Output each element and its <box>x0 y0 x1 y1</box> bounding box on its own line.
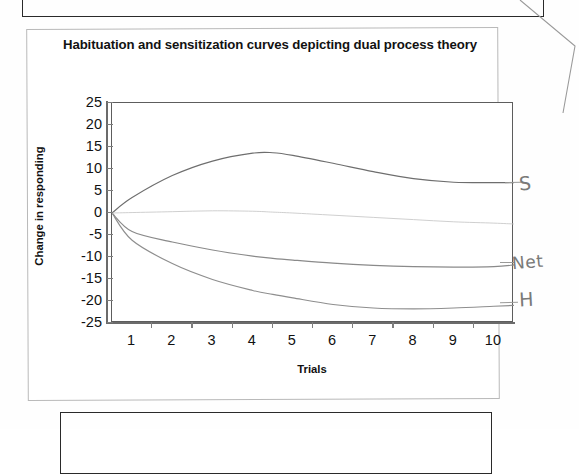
x-tick-mark <box>392 322 393 328</box>
y-tick-label: 15 <box>56 139 102 154</box>
x-tick-mark <box>433 322 434 328</box>
x-tick-label: 9 <box>433 333 473 348</box>
x-tick-mark <box>191 322 192 328</box>
handwritten-label-habituation: H <box>518 288 534 311</box>
x-tick-label: 2 <box>151 333 191 348</box>
handwritten-label-sensitization: S <box>518 172 532 195</box>
x-axis-title: Trials <box>111 363 513 375</box>
y-tick-label: 5 <box>56 183 102 198</box>
curve-baseline <box>112 211 514 224</box>
x-axis-tick-labels: 12345678910 <box>111 333 513 357</box>
y-tick-label: -10 <box>56 249 102 264</box>
x-tick-mark <box>272 322 273 328</box>
handwritten-label-net: Net <box>511 251 544 274</box>
x-tick-label: 5 <box>272 333 312 348</box>
x-tick-label: 10 <box>473 333 513 348</box>
y-tick-mark <box>107 146 113 147</box>
y-tick-label: -20 <box>56 293 102 308</box>
y-tick-label: -25 <box>56 315 102 330</box>
y-tick-mark <box>107 300 113 301</box>
y-tick-mark <box>107 234 113 235</box>
y-tick-mark <box>107 322 113 323</box>
y-tick-label: 20 <box>56 117 102 132</box>
x-tick-label: 3 <box>191 333 231 348</box>
curve-h <box>112 213 514 309</box>
scan-corner-fold <box>519 0 579 115</box>
pencil-leader-h <box>500 302 518 303</box>
x-tick-label: 4 <box>232 333 272 348</box>
y-tick-label: -5 <box>56 227 102 242</box>
x-tick-mark <box>151 322 152 328</box>
y-tick-mark <box>107 212 113 213</box>
x-tick-mark <box>312 322 313 328</box>
y-tick-mark <box>107 102 113 103</box>
curve-s <box>112 152 514 213</box>
y-tick-mark <box>107 278 113 279</box>
y-tick-label: 25 <box>56 95 102 110</box>
y-tick-label: 10 <box>56 161 102 176</box>
y-tick-mark <box>107 168 113 169</box>
chart-title: Habituation and sensitization curves dep… <box>60 36 480 53</box>
x-tick-label: 6 <box>312 333 352 348</box>
x-tick-label: 7 <box>352 333 392 348</box>
x-tick-label: 8 <box>392 333 432 348</box>
x-tick-label: 1 <box>111 333 151 348</box>
x-tick-mark <box>232 322 233 328</box>
y-tick-mark <box>107 124 113 125</box>
y-axis-tick-labels: 2520151050-5-10-15-20-25 <box>52 0 102 429</box>
y-axis-title: Change in responding <box>33 121 45 291</box>
y-tick-label: -15 <box>56 271 102 286</box>
curve-net <box>112 213 514 267</box>
x-tick-mark <box>473 322 474 328</box>
scan-ruled-box-bottom <box>60 412 492 474</box>
x-tick-mark <box>352 322 353 328</box>
curves-svg <box>112 103 514 323</box>
y-tick-label: 0 <box>56 205 102 220</box>
y-tick-mark <box>107 190 113 191</box>
y-tick-mark <box>107 256 113 257</box>
plot-area <box>111 102 513 322</box>
